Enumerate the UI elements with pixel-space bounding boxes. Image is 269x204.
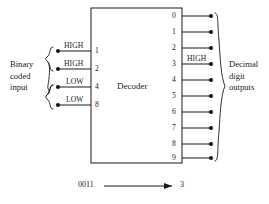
binary-coded-input-label-line-2: coded — [10, 72, 33, 81]
binary-coded-input-label: Binary coded input — [10, 60, 33, 92]
output-digit-number-7: 7 — [172, 124, 176, 132]
output-digit-number-5: 5 — [172, 92, 176, 100]
input-signal-label-8: LOW — [65, 96, 85, 104]
output-wires — [182, 16, 211, 158]
input-pin-number-4: 4 — [95, 83, 99, 91]
output-digit-number-0: 0 — [172, 12, 176, 20]
output-digit-number-4: 4 — [172, 76, 176, 84]
input-signal-label-1: HIGH — [63, 42, 84, 50]
decimal-digit-outputs-label-line-3: outputs — [229, 83, 258, 92]
caption-output-digit: 3 — [180, 181, 184, 189]
input-pin-number-2: 2 — [95, 65, 99, 73]
input-group-brace-lower — [46, 94, 53, 109]
input-group-brace-mid — [48, 62, 50, 94]
output-terminal-dots — [209, 14, 213, 160]
decimal-digit-outputs-label: Decimal digit outputs — [229, 60, 258, 92]
input-terminal-dots — [56, 49, 60, 107]
binary-coded-input-label-line-1: Binary — [10, 60, 33, 69]
output-digit-number-9: 9 — [172, 154, 176, 162]
output-digit-number-8: 8 — [172, 140, 176, 148]
input-signal-label-2: HIGH — [63, 60, 84, 68]
caption-arrow — [104, 183, 172, 189]
bcd-decoder-diagram: Decoder Binary coded input Decimal digit… — [0, 0, 269, 204]
output-digit-number-1: 1 — [172, 28, 176, 36]
input-signal-label-4: LOW — [65, 78, 85, 86]
output-group-brace — [215, 13, 225, 161]
input-pin-number-8: 8 — [95, 101, 99, 109]
decoder-block-label: Decoder — [117, 82, 147, 91]
binary-coded-input-label-line-3: input — [10, 83, 33, 92]
output-digit-number-3: 3 — [172, 60, 176, 68]
input-pin-number-1: 1 — [95, 47, 99, 55]
decimal-digit-outputs-label-line-2: digit — [229, 72, 258, 81]
active-output-signal-label: HIGH — [186, 55, 207, 63]
caption-input-code: 0011 — [78, 181, 94, 189]
diagram-vector-layer — [0, 0, 269, 204]
output-digit-number-6: 6 — [172, 108, 176, 116]
output-digit-number-2: 2 — [172, 44, 176, 52]
decimal-digit-outputs-label-line-1: Decimal — [229, 60, 258, 69]
